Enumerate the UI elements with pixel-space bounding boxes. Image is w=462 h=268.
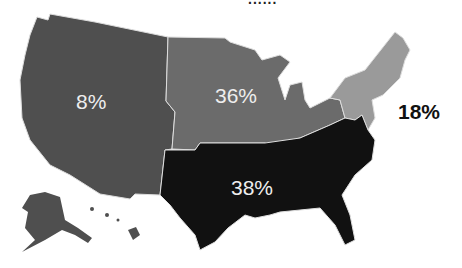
region-alaska: [22, 192, 92, 252]
label-midwest: 36%: [215, 84, 257, 108]
region-hawaii-island-2: [105, 213, 109, 217]
us-region-map: [0, 0, 462, 268]
label-south: 38%: [231, 176, 273, 200]
region-hawaii-island-1: [90, 207, 94, 211]
region-hawaii-island-3: [117, 219, 120, 222]
label-west: 8%: [76, 90, 106, 114]
region-hawaii-island-4: [128, 227, 140, 240]
label-northeast: 18%: [398, 100, 440, 124]
